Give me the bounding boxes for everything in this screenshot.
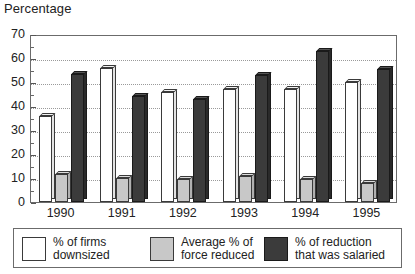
bar-1994-series-3 bbox=[316, 51, 329, 202]
y-axis-minor-tick bbox=[31, 167, 34, 168]
bar-face bbox=[55, 174, 68, 202]
bar-side bbox=[206, 96, 209, 199]
gridline bbox=[31, 60, 396, 61]
legend-item-1[interactable]: % of firms downsized bbox=[22, 234, 110, 264]
bar-1992-series-1 bbox=[161, 92, 174, 202]
bar-top bbox=[223, 86, 239, 89]
y-axis-tick bbox=[31, 83, 36, 84]
y-axis-tick-label: 40 bbox=[0, 99, 25, 113]
y-axis-tick-label: 50 bbox=[0, 75, 25, 89]
y-axis-minor-tick bbox=[31, 143, 34, 144]
bar-1994-series-2 bbox=[300, 179, 313, 202]
bar-face bbox=[284, 89, 297, 202]
y-axis-minor-tick bbox=[31, 119, 34, 120]
bar-face bbox=[223, 89, 236, 202]
bar-1991-series-3 bbox=[132, 96, 145, 202]
y-axis-tick-label: 10 bbox=[0, 171, 25, 185]
bar-face bbox=[255, 75, 268, 202]
bar-face bbox=[361, 183, 374, 202]
y-axis-minor-tick bbox=[31, 95, 34, 96]
bar-face bbox=[71, 74, 84, 202]
bar-1995-series-3 bbox=[377, 69, 390, 202]
bar-face bbox=[116, 178, 129, 202]
x-axis-tick-label-1995: 1995 bbox=[336, 206, 397, 220]
white-swatch bbox=[22, 237, 46, 261]
x-axis-tick-label-1991: 1991 bbox=[91, 206, 152, 220]
bar-1993-series-1 bbox=[223, 89, 236, 202]
bar-face bbox=[300, 179, 313, 202]
chart-title: Percentage bbox=[4, 1, 72, 16]
bar-1990-series-2 bbox=[55, 174, 68, 202]
bar-side bbox=[390, 66, 393, 199]
bar-side bbox=[84, 71, 87, 199]
x-axis-tick-label-1992: 1992 bbox=[152, 206, 213, 220]
legend-label: % of firms downsized bbox=[53, 236, 110, 262]
plot-inner bbox=[31, 36, 396, 202]
y-axis-minor-tick bbox=[31, 71, 34, 72]
bar-face bbox=[161, 92, 174, 202]
bar-face bbox=[239, 176, 252, 202]
y-axis-tick bbox=[31, 179, 36, 180]
legend-label: Average % of force reduced bbox=[181, 236, 254, 262]
y-axis-tick-label: 60 bbox=[0, 51, 25, 65]
bar-1993-series-3 bbox=[255, 75, 268, 202]
x-axis-tick-label-1990: 1990 bbox=[30, 206, 91, 220]
bar-1994-series-1 bbox=[284, 89, 297, 202]
bar-1995-series-1 bbox=[345, 82, 358, 202]
y-axis-tick bbox=[31, 155, 36, 156]
bar-1990-series-1 bbox=[39, 116, 52, 202]
bar-face bbox=[177, 179, 190, 202]
x-axis-tick-label-1993: 1993 bbox=[214, 206, 275, 220]
bar-face bbox=[39, 116, 52, 202]
bar-top bbox=[377, 66, 393, 69]
dark-swatch bbox=[264, 237, 288, 261]
bar-side bbox=[358, 79, 361, 199]
bar-1991-series-2 bbox=[116, 178, 129, 202]
bar-top bbox=[72, 71, 88, 74]
y-axis-minor-tick bbox=[31, 191, 34, 192]
bar-face bbox=[316, 51, 329, 202]
chart-container: Percentage 010203040506070 1990199119921… bbox=[0, 0, 415, 274]
bar-1992-series-3 bbox=[193, 99, 206, 202]
legend-item-2[interactable]: Average % of force reduced bbox=[150, 234, 254, 264]
legend-label: % of reduction that was salaried bbox=[295, 236, 385, 262]
bar-1992-series-2 bbox=[177, 179, 190, 202]
x-axis-tick-label-1994: 1994 bbox=[275, 206, 336, 220]
y-axis-tick bbox=[31, 131, 36, 132]
bar-face bbox=[377, 69, 390, 202]
y-axis-tick bbox=[31, 59, 36, 60]
legend-item-3[interactable]: % of reduction that was salaried bbox=[264, 234, 385, 264]
bar-face bbox=[132, 96, 145, 202]
bar-1993-series-2 bbox=[239, 176, 252, 202]
bar-face bbox=[100, 68, 113, 202]
chart-legend: % of firms downsizedAverage % of force r… bbox=[13, 228, 402, 268]
bar-top bbox=[239, 173, 255, 176]
bar-side bbox=[145, 93, 148, 199]
y-axis-tick-label: 20 bbox=[0, 147, 25, 161]
y-axis-tick-label: 30 bbox=[0, 123, 25, 137]
bar-side bbox=[329, 48, 332, 199]
y-axis-tick bbox=[31, 107, 36, 108]
y-axis-tick bbox=[31, 35, 36, 36]
bar-top bbox=[361, 180, 377, 183]
bar-side bbox=[268, 72, 271, 199]
bar-top bbox=[316, 48, 332, 51]
plot-area bbox=[30, 35, 397, 203]
bar-top bbox=[255, 72, 271, 75]
bar-face bbox=[193, 99, 206, 202]
bar-1991-series-1 bbox=[100, 68, 113, 202]
y-axis-tick-label: 70 bbox=[0, 27, 25, 41]
gray-swatch bbox=[150, 237, 174, 261]
bar-top bbox=[40, 113, 56, 116]
y-axis-minor-tick bbox=[31, 47, 34, 48]
bar-1990-series-3 bbox=[71, 74, 84, 202]
y-axis-tick-label: 0 bbox=[0, 195, 25, 209]
bar-1995-series-2 bbox=[361, 183, 374, 202]
bar-face bbox=[345, 82, 358, 202]
y-axis-tick bbox=[31, 203, 36, 204]
